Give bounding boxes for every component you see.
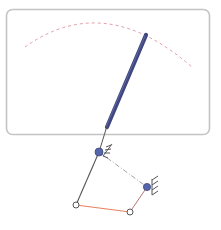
ground-hatch-b-icon (152, 176, 158, 195)
crank-link (76, 152, 99, 205)
linkage-diagram (0, 0, 221, 230)
ground-hatch-a-icon (103, 144, 112, 158)
gauge-frame (7, 10, 210, 135)
fixed-pivot-a (95, 148, 103, 156)
moving-joint-d (127, 209, 133, 215)
rocker-link (130, 187, 147, 212)
fixed-pivot-b (143, 183, 150, 190)
coupler-link (76, 205, 130, 212)
moving-joint-c (73, 202, 79, 208)
